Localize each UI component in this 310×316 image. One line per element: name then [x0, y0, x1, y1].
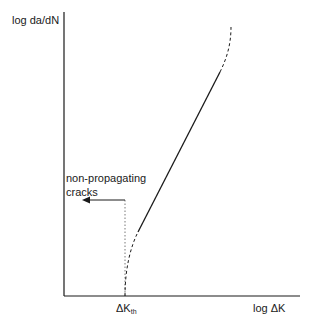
diagram-canvas	[0, 0, 310, 316]
near-threshold-dashed-curve	[125, 232, 138, 296]
annotation-line1: non-propagating	[66, 172, 146, 185]
threshold-label-main: ΔK	[116, 302, 131, 314]
threshold-label: ΔKth	[116, 302, 137, 316]
y-axis-label: log da/dN	[12, 14, 59, 27]
rapid-growth-dashed-curve	[220, 27, 231, 72]
paris-region-solid-line	[138, 72, 220, 232]
x-axis-label: log ΔK	[253, 302, 285, 315]
annotation-line2: cracks	[66, 186, 98, 199]
threshold-label-sub: th	[131, 308, 137, 315]
